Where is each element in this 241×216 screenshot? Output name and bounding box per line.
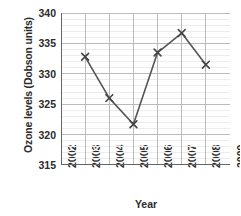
y-tick-label: 325 [16, 98, 56, 110]
y-axis-title: Ozone levels (Dobson units) [22, 0, 34, 170]
y-tick-label: 335 [16, 37, 56, 49]
ozone-line-chart: Ozone levels (Dobson units) 315320325330… [0, 0, 240, 216]
y-tick-label: 330 [16, 68, 56, 80]
x-axis-title: Year [61, 198, 231, 210]
y-tick-label: 320 [16, 129, 56, 141]
plot-area [61, 13, 230, 165]
chart-canvas [61, 13, 230, 165]
y-tick-label: 340 [16, 7, 56, 19]
y-tick-label: 315 [16, 159, 56, 171]
x-tick-label: 2009 [235, 145, 241, 168]
